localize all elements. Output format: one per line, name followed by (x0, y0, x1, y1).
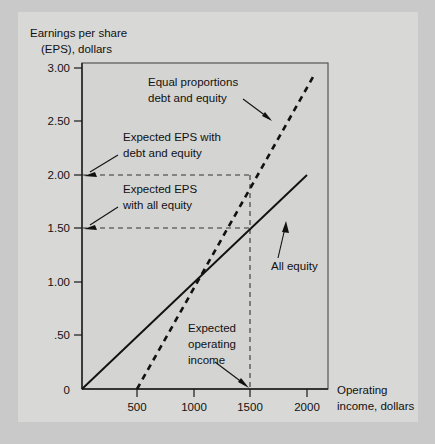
chart-figure: 3.00 2.50 2.00 1.50 1.00 .50 0 500 1000 … (0, 0, 435, 444)
x-tick-label-500: 500 (127, 401, 146, 413)
y-tick-label-0: 0 (64, 384, 70, 396)
y-tick-label-1.00: 1.00 (48, 276, 70, 288)
annotation-expected-operating-income-line2: operating (188, 338, 236, 350)
annotation-all-equity: All equity (271, 260, 318, 272)
y-tick-label-0.50: .50 (54, 329, 70, 341)
annotation-expected-eps-all-equity-line1: Expected EPS (123, 183, 197, 195)
annotation-expected-eps-all-equity-line2: with all equity (122, 199, 192, 211)
y-tick-label-1.50: 1.50 (48, 222, 70, 234)
x-axis-ticks (137, 389, 307, 397)
x-axis-title-line1: Operating (337, 384, 388, 396)
annotation-equal-proportions-line2: debt and equity (148, 92, 227, 104)
eps-vs-operating-income-chart: 3.00 2.50 2.00 1.50 1.00 .50 0 500 1000 … (0, 0, 435, 444)
y-axis-title-line1: Earnings per share (30, 27, 127, 39)
y-tick-label-3.00: 3.00 (48, 62, 70, 74)
annotation-expected-eps-debt-equity-line2: debt and equity (123, 147, 202, 159)
annotation-expected-operating-income-line3: income (188, 354, 225, 366)
annotation-expected-eps-debt-equity-line1: Expected EPS with (123, 131, 221, 143)
x-tick-label-1500: 1500 (237, 401, 263, 413)
y-tick-label-2.50: 2.50 (48, 115, 70, 127)
annotation-equal-proportions-line1: Equal proportions (148, 76, 238, 88)
y-tick-label-2.00: 2.00 (48, 169, 70, 181)
x-tick-label-2000: 2000 (294, 401, 320, 413)
y-axis-ticks (74, 68, 82, 335)
y-axis-title-line2: (EPS), dollars (41, 43, 112, 55)
x-axis-title-line2: income, dollars (337, 400, 415, 412)
annotation-expected-operating-income-line1: Expected (188, 322, 236, 334)
x-tick-label-1000: 1000 (181, 401, 207, 413)
